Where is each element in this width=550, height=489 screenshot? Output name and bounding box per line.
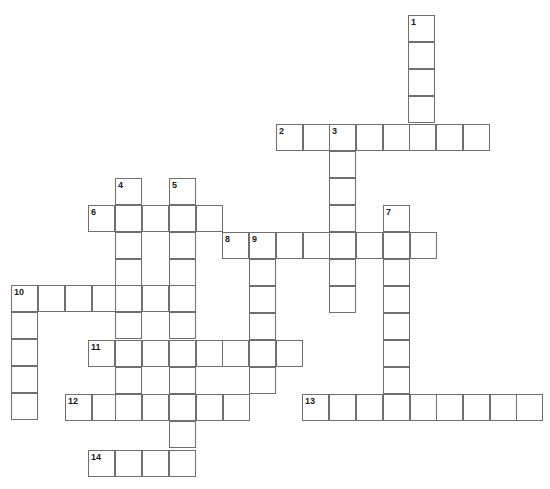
crossword-cell-start-7[interactable]: 7: [383, 205, 410, 232]
crossword-cell[interactable]: [329, 259, 356, 286]
crossword-grid[interactable]: 1234567891011121314: [0, 0, 550, 489]
crossword-cell[interactable]: [383, 124, 410, 151]
cell-number-14: 14: [91, 452, 101, 462]
crossword-cell[interactable]: [169, 394, 196, 421]
crossword-cell[interactable]: [410, 232, 437, 259]
crossword-cell[interactable]: [249, 340, 276, 367]
cell-number-7: 7: [386, 207, 391, 217]
crossword-cell-start-10[interactable]: 10: [11, 285, 38, 312]
crossword-cell-start-2[interactable]: 2: [276, 124, 303, 151]
crossword-cell[interactable]: [249, 313, 276, 340]
crossword-cell-start-13[interactable]: 13: [302, 394, 329, 421]
crossword-cell[interactable]: [303, 124, 330, 151]
crossword-cell-start-1[interactable]: 1: [408, 15, 435, 42]
crossword-cell[interactable]: [142, 340, 169, 367]
crossword-cell[interactable]: [223, 394, 250, 421]
crossword-cell[interactable]: [65, 285, 92, 312]
crossword-cell[interactable]: [38, 285, 65, 312]
crossword-cell[interactable]: [142, 205, 169, 232]
crossword-cell[interactable]: [329, 151, 356, 178]
crossword-cell[interactable]: [356, 124, 383, 151]
crossword-cell[interactable]: [196, 394, 223, 421]
crossword-cell[interactable]: [356, 232, 383, 259]
crossword-cell[interactable]: [276, 340, 303, 367]
crossword-cell[interactable]: [115, 285, 142, 312]
crossword-cell[interactable]: [436, 124, 463, 151]
crossword-puzzle-page: 1234567891011121314: [0, 0, 550, 489]
crossword-cell-start-12[interactable]: 12: [65, 394, 92, 421]
crossword-cell[interactable]: [169, 421, 196, 448]
crossword-cell[interactable]: [383, 286, 410, 313]
crossword-cell[interactable]: [142, 450, 169, 477]
crossword-cell[interactable]: [410, 394, 437, 421]
crossword-cell[interactable]: [436, 394, 463, 421]
crossword-cell[interactable]: [383, 340, 410, 367]
crossword-cell[interactable]: [408, 69, 435, 96]
crossword-cell-start-11[interactable]: 11: [88, 340, 115, 367]
crossword-cell[interactable]: [222, 340, 249, 367]
crossword-cell-start-9[interactable]: 9: [249, 232, 276, 259]
crossword-cell-start-14[interactable]: 14: [88, 450, 115, 477]
crossword-cell[interactable]: [329, 178, 356, 205]
cell-number-10: 10: [14, 287, 24, 297]
cell-number-4: 4: [118, 180, 123, 190]
crossword-cell[interactable]: [169, 285, 196, 312]
crossword-cell[interactable]: [115, 205, 142, 232]
crossword-cell[interactable]: [115, 394, 142, 421]
crossword-cell[interactable]: [169, 312, 196, 339]
crossword-cell[interactable]: [408, 42, 435, 69]
crossword-cell[interactable]: [169, 340, 196, 367]
crossword-cell[interactable]: [329, 286, 356, 313]
crossword-cell[interactable]: [11, 339, 38, 366]
crossword-cell[interactable]: [329, 205, 356, 232]
crossword-cell[interactable]: [409, 124, 436, 151]
cell-number-8: 8: [225, 234, 230, 244]
crossword-cell[interactable]: [383, 367, 410, 394]
crossword-cell-start-5[interactable]: 5: [169, 178, 196, 205]
crossword-cell[interactable]: [169, 450, 196, 477]
cell-number-12: 12: [68, 396, 78, 406]
crossword-cell[interactable]: [11, 312, 38, 339]
crossword-cell[interactable]: [249, 259, 276, 286]
crossword-cell[interactable]: [196, 205, 223, 232]
cell-number-9: 9: [252, 234, 257, 244]
crossword-cell[interactable]: [383, 259, 410, 286]
crossword-cell[interactable]: [169, 205, 196, 232]
crossword-cell[interactable]: [463, 124, 490, 151]
crossword-cell[interactable]: [115, 340, 142, 367]
crossword-cell[interactable]: [383, 313, 410, 340]
crossword-cell[interactable]: [169, 367, 196, 394]
crossword-cell[interactable]: [408, 96, 435, 123]
crossword-cell[interactable]: [249, 286, 276, 313]
crossword-cell[interactable]: [115, 232, 142, 259]
crossword-cell[interactable]: [169, 232, 196, 259]
crossword-cell[interactable]: [115, 259, 142, 286]
crossword-cell[interactable]: [329, 232, 356, 259]
cell-number-2: 2: [279, 126, 284, 136]
crossword-cell[interactable]: [303, 232, 330, 259]
crossword-cell[interactable]: [356, 394, 383, 421]
crossword-cell[interactable]: [142, 394, 169, 421]
crossword-cell-start-3[interactable]: 3: [329, 124, 356, 151]
crossword-cell-start-4[interactable]: 4: [115, 178, 142, 205]
crossword-cell[interactable]: [115, 450, 142, 477]
crossword-cell[interactable]: [516, 394, 543, 421]
crossword-cell-start-8[interactable]: 8: [222, 232, 249, 259]
crossword-cell[interactable]: [115, 312, 142, 339]
cell-number-13: 13: [305, 396, 315, 406]
crossword-cell[interactable]: [329, 394, 356, 421]
crossword-cell[interactable]: [169, 259, 196, 286]
crossword-cell[interactable]: [383, 394, 410, 421]
crossword-cell[interactable]: [490, 394, 517, 421]
cell-number-6: 6: [91, 207, 96, 217]
crossword-cell[interactable]: [142, 285, 169, 312]
crossword-cell[interactable]: [196, 340, 223, 367]
crossword-cell[interactable]: [11, 393, 38, 420]
crossword-cell[interactable]: [276, 232, 303, 259]
crossword-cell[interactable]: [11, 366, 38, 393]
crossword-cell-start-6[interactable]: 6: [88, 205, 115, 232]
crossword-cell[interactable]: [249, 367, 276, 394]
crossword-cell[interactable]: [115, 367, 142, 394]
crossword-cell[interactable]: [463, 394, 490, 421]
crossword-cell[interactable]: [383, 232, 410, 259]
